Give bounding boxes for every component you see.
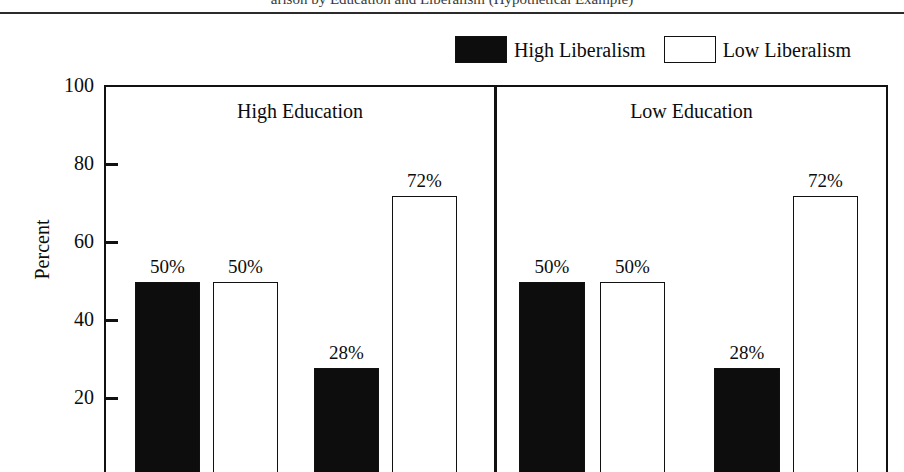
y-tick-label-60: 60 (50, 231, 94, 251)
bar-value-label: 72% (793, 171, 858, 190)
bar-value-label: 50% (600, 257, 665, 276)
y-tick-mark-80 (106, 163, 118, 166)
legend-item-high-liberalism: High Liberalism (455, 36, 654, 63)
legend-swatch-filled-icon (455, 36, 507, 63)
panel-divider (494, 87, 497, 472)
plot-area: High Education Low Education 50% 50% 28%… (104, 85, 888, 472)
bar-high-education-group2-low-liberalism (392, 196, 457, 472)
y-tick-label-100: 100 (50, 75, 94, 95)
bar-value-label: 28% (714, 343, 780, 362)
y-tick-label-40: 40 (50, 309, 94, 329)
figure-caption: arison by Education and Liberalism (Hypo… (0, 0, 904, 8)
bar-value-label: 50% (213, 257, 278, 276)
legend-item-low-liberalism: Low Liberalism (664, 36, 859, 63)
y-tick-mark-60 (106, 241, 118, 244)
legend-label-high-liberalism: High Liberalism (507, 40, 654, 60)
bar-value-label: 72% (392, 171, 457, 190)
y-tick-mark-40 (106, 319, 118, 322)
panel-title-high-education: High Education (106, 101, 494, 121)
chart-legend: High Liberalism Low Liberalism (455, 36, 859, 63)
bar-value-label: 50% (519, 257, 585, 276)
bar-low-education-group1-high-liberalism (519, 282, 585, 472)
bar-low-education-group2-high-liberalism (714, 368, 780, 472)
bar-value-label: 50% (135, 257, 200, 276)
chart-page: arison by Education and Liberalism (Hypo… (0, 0, 904, 472)
bar-low-education-group1-low-liberalism (600, 282, 665, 472)
legend-label-low-liberalism: Low Liberalism (716, 40, 859, 60)
bar-high-education-group1-low-liberalism (213, 282, 278, 472)
y-tick-mark-20 (106, 397, 118, 400)
bar-high-education-group2-high-liberalism (314, 368, 379, 472)
legend-swatch-hollow-icon (664, 36, 716, 63)
bar-high-education-group1-high-liberalism (135, 282, 200, 472)
bar-low-education-group2-low-liberalism (793, 196, 858, 472)
panel-title-low-education: Low Education (497, 101, 886, 121)
y-tick-label-20: 20 (50, 387, 94, 407)
y-tick-label-80: 80 (50, 153, 94, 173)
caption-divider-rule (0, 12, 904, 14)
bar-value-label: 28% (314, 343, 379, 362)
